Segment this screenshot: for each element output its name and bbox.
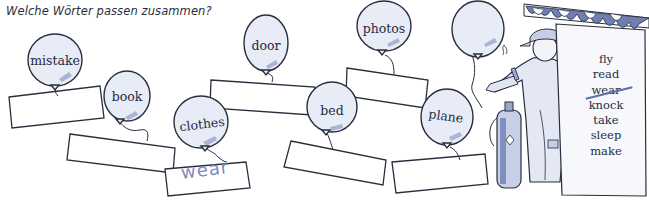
word-make: make (571, 144, 641, 159)
answer-box-2[interactable] (67, 134, 175, 173)
word-knock: knock (571, 98, 641, 113)
answer-box-7[interactable] (392, 154, 488, 193)
word-wear-struck: wear (571, 83, 641, 98)
word-read: read (571, 67, 641, 82)
word-list: fly read wear knock take sleep make (571, 52, 641, 159)
balloon-label-bed: bed (320, 103, 343, 118)
balloon-label-mistake: mistake (30, 53, 80, 68)
answer-box-1[interactable] (9, 86, 104, 128)
balloon-blank (452, 1, 504, 59)
answer-box-4[interactable] (210, 80, 315, 115)
balloon-label-photos: photos (363, 21, 406, 36)
balloon-vendor-illustration (486, 29, 566, 188)
word-take: take (571, 113, 641, 128)
word-fly: fly (571, 52, 641, 67)
word-sleep: sleep (571, 128, 641, 143)
balloon-label-book: book (112, 89, 143, 104)
worksheet-illustration: .bl { fill: #e8ecf6; stroke: #2a2d3d; st… (0, 0, 649, 200)
balloon-label-door: door (251, 38, 280, 53)
answer-box-5[interactable] (284, 141, 386, 185)
answer-box-6[interactable] (346, 68, 428, 108)
